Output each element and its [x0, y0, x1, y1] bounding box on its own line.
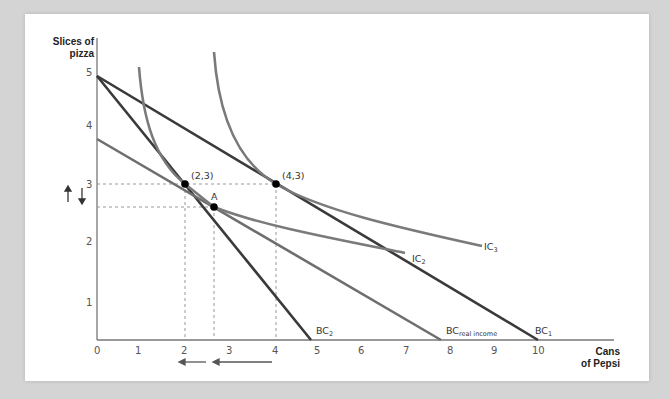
point-2-3-label: (2,3) — [191, 170, 214, 181]
bc1-label: BC1 — [535, 325, 552, 338]
svg-text:1: 1 — [135, 345, 141, 356]
point-4-3-label: (4,3) — [282, 170, 305, 181]
x-axis-title-line2: of Pepsi — [560, 358, 620, 370]
svg-text:8: 8 — [447, 345, 453, 356]
svg-text:3: 3 — [226, 345, 232, 356]
point-a-label: A — [211, 191, 218, 202]
svg-text:9: 9 — [491, 345, 497, 356]
ic2-label: IC2 — [412, 253, 426, 266]
svg-text:4: 4 — [86, 120, 92, 131]
ic3-label: IC3 — [484, 241, 498, 254]
svg-text:2: 2 — [86, 236, 92, 247]
ic2-curve — [139, 67, 405, 253]
svg-text:5: 5 — [86, 67, 92, 78]
point-a — [210, 203, 218, 211]
bc2-label: BC2 — [316, 325, 333, 338]
chart-plot: (2,3) (4,3) A IC2 IC3 BC2 BCreal income … — [0, 0, 669, 399]
svg-text:5: 5 — [314, 345, 320, 356]
point-2-3 — [181, 180, 189, 188]
ic3-curve — [214, 52, 482, 246]
svg-text:2: 2 — [181, 345, 187, 356]
svg-text:7: 7 — [403, 345, 409, 356]
y-axis-title: Slices of pizza — [40, 36, 94, 60]
y-axis-title-line2: pizza — [40, 48, 94, 60]
x-axis-title-line1: Cans — [560, 346, 620, 358]
svg-text:3: 3 — [86, 179, 92, 190]
bc2-line — [97, 76, 311, 340]
up-down-arrows-icon — [65, 186, 85, 204]
svg-text:6: 6 — [358, 345, 364, 356]
svg-text:1: 1 — [86, 297, 92, 308]
bc-real-income-line — [97, 139, 441, 340]
bc-real-income-label: BCreal income — [446, 325, 497, 338]
bc1-line — [97, 76, 538, 340]
svg-text:10: 10 — [532, 345, 545, 356]
y-axis-title-line1: Slices of — [40, 36, 94, 48]
left-arrows-icon — [179, 359, 272, 365]
point-4-3 — [272, 180, 280, 188]
svg-text:0: 0 — [94, 345, 100, 356]
x-axis-title: Cans of Pepsi — [560, 346, 620, 370]
y-tick-labels: 1 2 3 4 5 — [86, 67, 92, 308]
svg-text:4: 4 — [272, 345, 278, 356]
x-tick-labels: 0 1 2 3 4 5 6 7 8 9 10 — [94, 345, 545, 356]
